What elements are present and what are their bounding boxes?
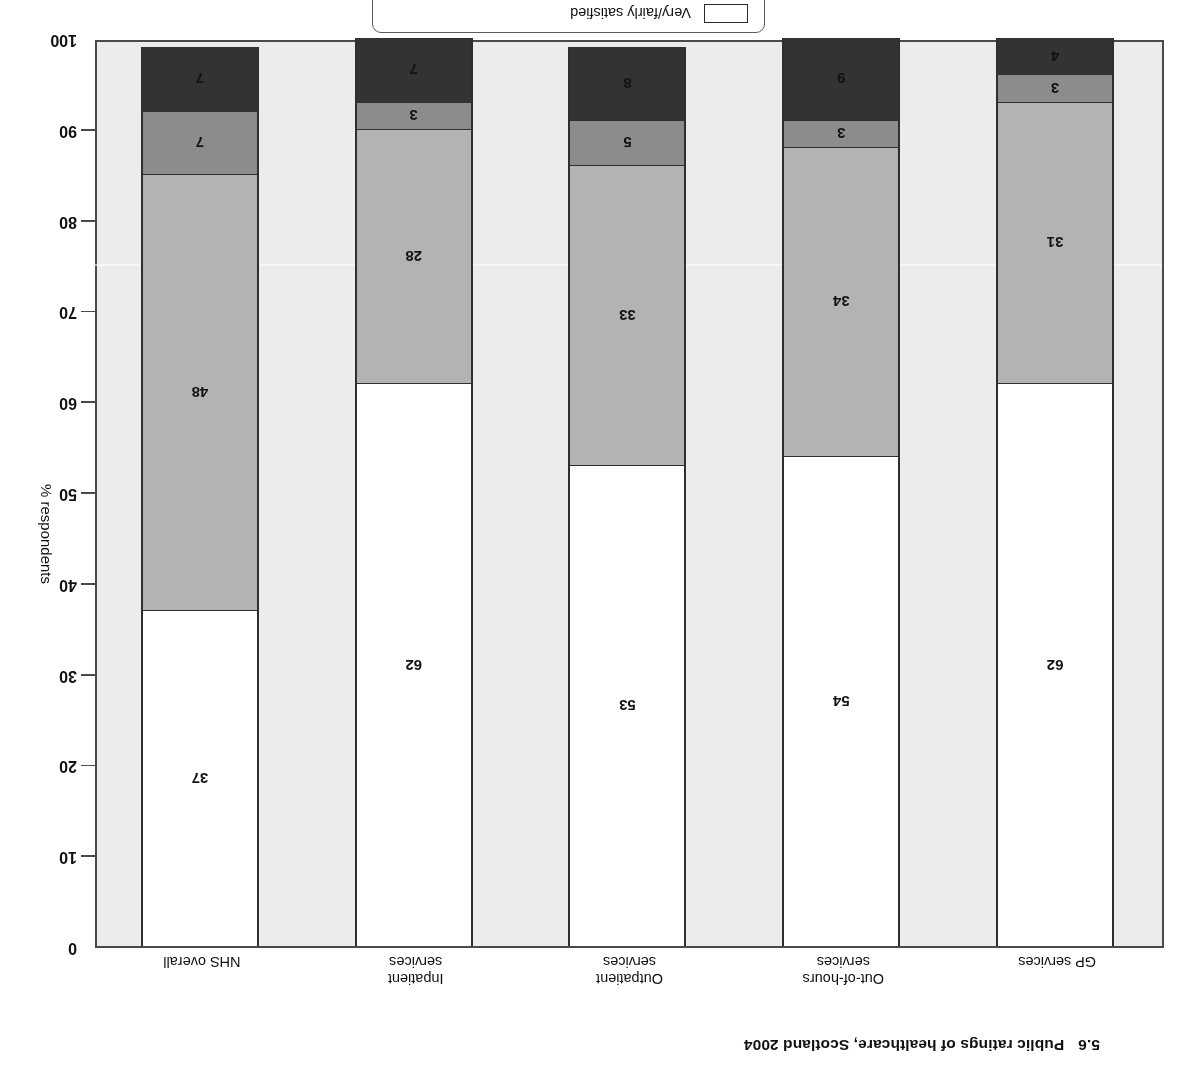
bar-segment-neither[interactable]: 28 [355,129,473,383]
bar-gp-services[interactable]: 623134 [996,42,1114,946]
bar-segment-slightly-dissatisfied[interactable]: 5 [569,120,687,165]
category-label-line: services [744,953,942,970]
bar-segment-value: 34 [833,294,850,309]
category-label-line: services [531,953,729,970]
bar-out-of-hours-services[interactable]: 543439 [782,42,900,946]
y-axis-tick [81,129,95,131]
y-axis-tick [81,492,95,494]
bar-outpatient-services[interactable]: 533358 [569,42,687,946]
y-axis-tick-label: 10 [59,848,77,866]
category-label-outpatient-services: Outpatientservices [531,953,729,987]
y-axis-label: % respondents [39,484,56,584]
bar-segment-satisfied[interactable]: 37 [141,610,259,946]
bar-segment-value: 8 [623,76,631,91]
bar-segment-value: 9 [837,71,845,86]
bar-segment-value: 54 [833,694,850,709]
bar-segment-slightly-dissatisfied[interactable]: 7 [141,111,259,175]
bar-segment-neither[interactable]: 31 [996,102,1114,383]
bar-segment-value: 31 [1047,235,1064,250]
bar-segment-dissatisfied[interactable]: 7 [141,47,259,111]
category-label-line: services [317,953,515,970]
bar-segment-slightly-dissatisfied[interactable]: 3 [996,74,1114,101]
y-axis-tick-label: 20 [59,757,77,775]
category-label-line: Out-of-hours [744,970,942,987]
bar-segment-value: 5 [623,135,631,150]
bar-segment-value: 3 [837,126,845,141]
category-label-line: Outpatient [531,970,729,987]
legend-box: Very/fairly satisfiedNeither satisfied n… [372,0,765,33]
bar-segment-value: 7 [196,135,204,150]
bar-segment-neither[interactable]: 48 [141,174,259,610]
figure-title: 5.6Public ratings of healthcare, Scotlan… [744,1036,1100,1054]
bar-segment-satisfied[interactable]: 53 [569,465,687,946]
bar-segment-value: 37 [192,771,209,786]
bar-segment-dissatisfied[interactable]: 4 [996,38,1114,74]
bar-segment-value: 28 [405,249,422,264]
bar-segment-value: 7 [410,62,418,77]
bar-segment-value: 62 [1047,658,1064,673]
legend-swatch-icon [704,4,748,23]
y-axis-tick [81,674,95,676]
bar-segment-value: 48 [192,385,209,400]
bar-segment-value: 33 [619,308,636,323]
category-label-line: Inpatient [317,970,515,987]
y-axis-tick-label: 50 [59,485,77,503]
bar-nhs-overall[interactable]: 374877 [141,42,259,946]
y-axis-tick-label: 80 [59,213,77,231]
bar-segment-satisfied[interactable]: 54 [782,456,900,946]
category-label-line: GP services [958,953,1156,970]
legend-item-label: Very/fairly satisfied [570,6,691,22]
plot-area: 623134543439533358622837374877 [95,40,1164,948]
bar-segment-satisfied[interactable]: 62 [355,383,473,946]
bar-segment-value: 53 [619,698,636,713]
y-axis-tick-label: 100 [50,31,77,49]
y-axis-tick-label: 60 [59,394,77,412]
category-label-gp-services: GP services [958,953,1156,970]
bar-segment-slightly-dissatisfied[interactable]: 3 [355,102,473,129]
bar-inpatient-services[interactable]: 622837 [355,42,473,946]
category-labels: GP servicesOut-of-hoursservicesOutpatien… [95,953,1164,1013]
y-axis-tick-label: 70 [59,303,77,321]
y-axis-tick [81,401,95,403]
y-axis-tick-label: 30 [59,667,77,685]
bar-segment-value: 7 [196,71,204,86]
legend-item: Very/fairly satisfied [570,4,748,23]
figure-rotated-container: 5.6Public ratings of healthcare, Scotlan… [0,0,1195,1068]
category-label-inpatient-services: Inpatientservices [317,953,515,987]
bar-segment-dissatisfied[interactable]: 9 [782,38,900,120]
bar-segment-value: 62 [405,658,422,673]
figure-title-text: Public ratings of healthcare, Scotland 2… [744,1037,1064,1054]
y-axis-tick [81,583,95,585]
y-axis-tick [81,855,95,857]
bar-segment-value: 4 [1051,49,1059,64]
bar-segment-dissatisfied[interactable]: 8 [569,47,687,120]
bar-segment-neither[interactable]: 33 [569,165,687,465]
bar-segment-value: 3 [1051,81,1059,96]
y-axis-tick [81,765,95,767]
y-axis-tick-label: 90 [59,122,77,140]
figure-number: 5.6 [1078,1037,1100,1054]
bar-segment-value: 3 [410,108,418,123]
bar-segment-dissatisfied[interactable]: 7 [355,38,473,102]
bar-segment-satisfied[interactable]: 62 [996,383,1114,946]
category-label-line: NHS overall [103,953,301,970]
category-label-nhs-overall: NHS overall [103,953,301,970]
y-axis-tick [81,220,95,222]
y-axis-tick [81,311,95,313]
category-label-out-of-hours-services: Out-of-hoursservices [744,953,942,987]
chart-figure: 5.6Public ratings of healthcare, Scotlan… [0,0,1195,1068]
y-axis-tick-label: 40 [59,576,77,594]
y-axis-tick-label: 0 [68,939,77,957]
bar-segment-slightly-dissatisfied[interactable]: 3 [782,120,900,147]
bar-segment-neither[interactable]: 34 [782,147,900,456]
